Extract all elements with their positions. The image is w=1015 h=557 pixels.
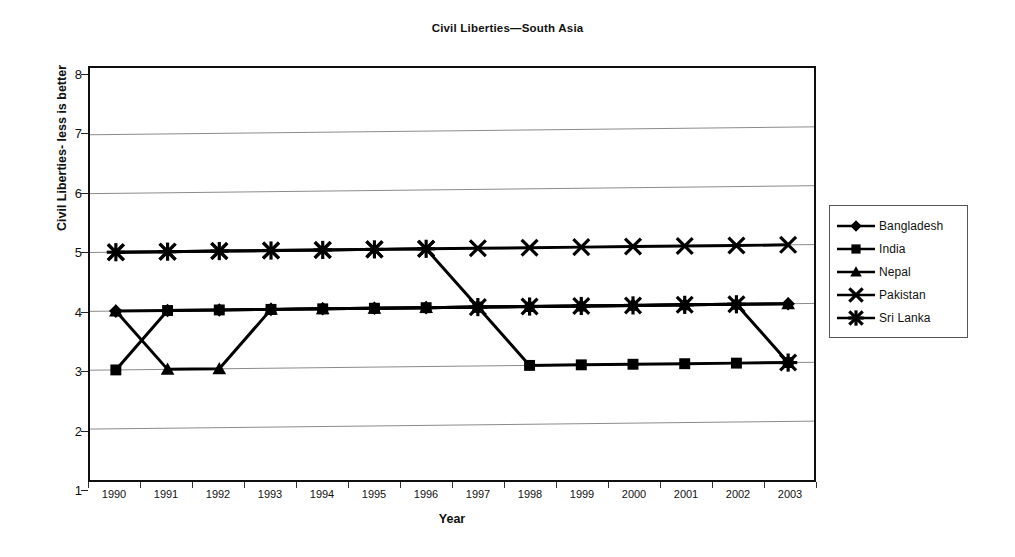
data-point-star [624, 296, 642, 314]
data-point-diamond [850, 220, 862, 232]
x-tick-label: 1994 [310, 488, 334, 500]
x-tick-label: 2002 [726, 488, 750, 500]
data-series-layer [90, 68, 814, 480]
x-tick-label: 1995 [362, 488, 386, 500]
legend-marker-triangle-icon [836, 264, 876, 280]
y-tick-mark [81, 371, 88, 372]
data-point-star [779, 353, 797, 371]
legend-item-nepal[interactable]: Nepal [836, 260, 963, 283]
x-tick-mark [296, 482, 297, 488]
x-axis-tick-labels: 1990199119921993199419951996199719981999… [0, 488, 1015, 506]
y-tick-label: 3 [52, 364, 82, 379]
data-point-star [158, 243, 176, 261]
series-pakistan [108, 237, 796, 260]
data-point-square [524, 360, 535, 371]
data-point-square [162, 305, 173, 316]
legend-marker-star-icon [836, 310, 876, 326]
data-point-square [679, 358, 690, 369]
data-point-square [110, 364, 121, 375]
data-point-star [676, 296, 694, 314]
y-tick-label: 5 [52, 245, 82, 260]
legend-label: Nepal [879, 265, 911, 279]
legend-label: Pakistan [879, 288, 926, 302]
x-tick-label: 1990 [102, 488, 126, 500]
x-tick-label: 1992 [206, 488, 230, 500]
y-tick-label: 6 [52, 185, 82, 200]
x-tick-mark [608, 482, 609, 488]
legend-marker-diamond-icon [836, 218, 876, 234]
data-point-square [576, 359, 587, 370]
x-tick-mark [660, 482, 661, 488]
y-tick-mark [81, 193, 88, 194]
legend-item-india[interactable]: India [836, 237, 963, 260]
data-point-star [520, 297, 538, 315]
x-tick-mark [400, 482, 401, 488]
data-point-star [262, 241, 280, 259]
chart-title: Civil Liberties—South Asia [0, 22, 1015, 34]
x-tick-mark [452, 482, 453, 488]
data-point-square [628, 359, 639, 370]
x-tick-label: 2000 [622, 488, 646, 500]
x-tick-mark [504, 482, 505, 488]
series-sri-lanka [107, 240, 798, 372]
data-point-star [210, 242, 228, 260]
x-tick-label: 2001 [674, 488, 698, 500]
data-point-square [851, 244, 860, 253]
data-point-square [214, 304, 225, 315]
chart-figure: Civil Liberties—South Asia Civil Liberti… [0, 0, 1015, 557]
legend-item-pakistan[interactable]: Pakistan [836, 283, 963, 306]
x-tick-mark [192, 482, 193, 488]
data-point-star [572, 297, 590, 315]
y-tick-label: 2 [52, 423, 82, 438]
x-axis-title: Year [88, 512, 816, 526]
x-tick-mark [556, 482, 557, 488]
chart-legend: BangladeshIndiaNepalPakistanSri Lanka [829, 205, 968, 338]
data-point-star [107, 243, 125, 261]
legend-marker-square-icon [836, 241, 876, 257]
legend-item-sri-lanka[interactable]: Sri Lanka [836, 306, 963, 329]
y-tick-mark [81, 133, 88, 134]
legend-label: India [879, 242, 906, 256]
data-point-star [417, 240, 435, 258]
x-tick-label: 1993 [258, 488, 282, 500]
data-point-star [314, 241, 332, 259]
x-tick-mark [712, 482, 713, 488]
legend-item-bangladesh[interactable]: Bangladesh [836, 214, 963, 237]
x-tick-label: 1997 [466, 488, 490, 500]
data-point-star [469, 298, 487, 316]
y-tick-mark [81, 74, 88, 75]
data-point-square [731, 358, 742, 369]
y-axis-tick-labels: 12345678 [48, 66, 82, 482]
x-tick-label: 1996 [414, 488, 438, 500]
x-tick-mark [244, 482, 245, 488]
legend-marker-x-icon [836, 287, 876, 303]
y-tick-mark [81, 252, 88, 253]
legend-label: Bangladesh [879, 219, 943, 233]
x-tick-label: 1998 [518, 488, 542, 500]
x-tick-mark [816, 482, 817, 488]
x-tick-label: 1999 [570, 488, 594, 500]
plot-area [88, 66, 816, 482]
x-tick-mark [140, 482, 141, 488]
data-point-star [727, 295, 745, 313]
x-tick-label: 2003 [778, 488, 802, 500]
legend-label: Sri Lanka [879, 311, 931, 325]
x-tick-mark [764, 482, 765, 488]
x-tick-label: 1991 [154, 488, 178, 500]
x-tick-mark [88, 482, 89, 488]
data-point-star [365, 240, 383, 258]
y-tick-label: 4 [52, 304, 82, 319]
x-tick-mark [348, 482, 349, 488]
data-point-star [848, 310, 863, 325]
y-tick-label: 8 [52, 67, 82, 82]
y-tick-mark [81, 490, 88, 491]
y-tick-mark [81, 431, 88, 432]
y-tick-label: 7 [52, 126, 82, 141]
y-tick-mark [81, 312, 88, 313]
